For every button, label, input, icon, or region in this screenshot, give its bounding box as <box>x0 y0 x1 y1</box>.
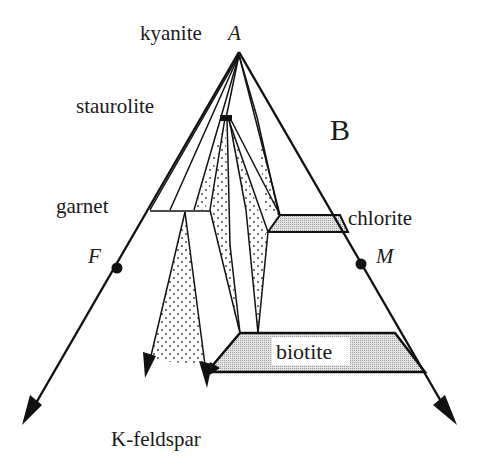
chlorite-label: chlorite <box>348 206 412 230</box>
m-point <box>356 259 367 270</box>
kfeldspar-label: K-feldspar <box>111 427 201 451</box>
kfs-arrowhead-1 <box>143 352 156 378</box>
kyanite-label: kyanite <box>140 21 202 45</box>
staurolite-point <box>220 115 232 121</box>
afm-diagram: kyanite A staurolite B garnet chlorite F… <box>0 0 483 469</box>
garnet-label: garnet <box>56 194 109 218</box>
apex-a-label: A <box>226 21 241 45</box>
arrowhead-right <box>433 395 457 425</box>
panel-label-b: B <box>330 113 350 146</box>
m-label: M <box>375 244 395 268</box>
staurolite-label: staurolite <box>76 94 154 118</box>
biotite-label: biotite <box>276 339 332 364</box>
f-point <box>112 263 123 274</box>
f-label: F <box>87 244 101 268</box>
